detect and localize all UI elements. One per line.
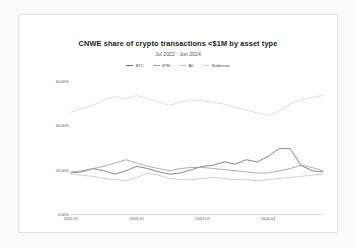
line-series-group <box>71 81 323 214</box>
chart-card: CNWE share of crypto transactions <$1M b… <box>18 14 338 233</box>
legend-swatch-icon <box>179 65 186 66</box>
y-axis-tick-label: 20.00% <box>56 167 69 172</box>
legend-item-stablecoin[interactable]: Stablecoin <box>202 63 230 68</box>
y-axis-tick-label: 60.00% <box>56 79 69 84</box>
legend-swatch-icon <box>153 65 160 66</box>
y-axis-tick-label: 40.00% <box>56 123 69 128</box>
x-axis-line <box>71 214 323 215</box>
legend-label: ETH <box>162 63 170 68</box>
legend-item-eth[interactable]: ETH <box>153 63 170 68</box>
chart-legend: BTCETHAltStablecoin <box>19 63 337 68</box>
chart-title: CNWE share of crypto transactions <$1M b… <box>19 39 337 48</box>
line-series-alt <box>71 173 323 181</box>
x-axis-tick-label: 2024-01 <box>261 216 275 221</box>
legend-label: Alt <box>188 63 193 68</box>
x-axis-labels: 2022-072023-012023-072024-01 <box>71 216 323 228</box>
legend-item-alt[interactable]: Alt <box>179 63 193 68</box>
legend-swatch-icon <box>202 65 209 66</box>
x-axis-tick-label: 2023-07 <box>195 216 209 221</box>
x-axis-tick-label: 2023-01 <box>130 216 144 221</box>
legend-swatch-icon <box>126 65 133 66</box>
x-axis-tick-label: 2022-07 <box>64 216 78 221</box>
chart-page: CNWE share of crypto transactions <$1M b… <box>0 0 356 247</box>
line-series-eth <box>71 160 323 173</box>
line-series-stablecoin <box>71 95 323 115</box>
legend-label: BTC <box>136 63 144 68</box>
line-series-btc <box>71 149 323 174</box>
plot-area <box>71 81 323 214</box>
legend-item-btc[interactable]: BTC <box>126 63 143 68</box>
legend-label: Stablecoin <box>211 63 229 68</box>
chart-subtitle: Jul 2022 - Jun 2024 <box>19 51 337 57</box>
y-axis-labels: 60.00%40.00%20.00%0.00% <box>19 81 69 214</box>
